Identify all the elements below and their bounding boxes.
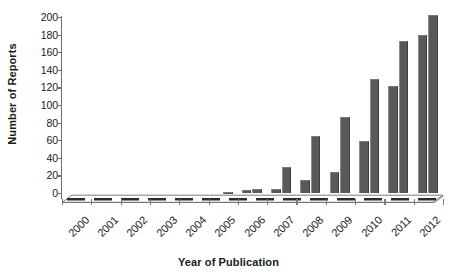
x-tick-mark [62, 199, 63, 205]
bar [282, 167, 292, 193]
y-tick-label: 180 [18, 30, 58, 40]
bar [252, 189, 262, 193]
x-tick-label: 2011 [377, 214, 414, 251]
y-tick-label: 100 [18, 100, 58, 110]
x-tick-label: 2003 [142, 214, 179, 251]
x-tick-label: 2009 [318, 214, 355, 251]
x-tick-label: 2004 [171, 214, 208, 251]
x-tick-mark [414, 199, 415, 205]
x-tick-mark [384, 199, 385, 205]
bar-series-container [62, 17, 443, 193]
x-tick-label: 2008 [289, 214, 326, 251]
bar [340, 117, 350, 193]
x-tick-mark [355, 199, 356, 205]
y-tick-label: 40 [18, 153, 58, 163]
y-tick-label: 80 [18, 118, 58, 128]
y-tick-label: 0 [18, 188, 58, 198]
x-tick-label: 2007 [259, 214, 296, 251]
bar [399, 41, 409, 193]
y-tick-label: 160 [18, 47, 58, 57]
x-tick-mark [296, 199, 297, 205]
x-tick-mark [91, 199, 92, 205]
x-tick-label: 2002 [113, 214, 150, 251]
bar [418, 35, 428, 193]
x-tick-label: 2000 [54, 214, 91, 251]
y-tick-label: 200 [18, 12, 58, 22]
bar [388, 86, 398, 193]
x-tick-mark [179, 199, 180, 205]
x-tick-label: 2010 [347, 214, 384, 251]
x-tick-mark [121, 199, 122, 205]
x-tick-mark [326, 199, 327, 205]
bar [311, 136, 321, 193]
x-tick-label: 2001 [83, 214, 120, 251]
bar [223, 192, 233, 194]
x-tick-label: 2006 [230, 214, 267, 251]
y-tick-label: 140 [18, 65, 58, 75]
x-tick-mark [209, 199, 210, 205]
x-tick-mark [150, 199, 151, 205]
bar [300, 180, 310, 193]
y-tick-label: 20 [18, 170, 58, 180]
x-tick-mark [238, 199, 239, 205]
chart-figure: Number of Reports 2001801601401201008060… [0, 0, 457, 278]
bar [428, 15, 438, 193]
x-tick-mark [267, 199, 268, 205]
bar [330, 172, 340, 193]
x-axis-title: Year of Publication [0, 256, 457, 268]
y-axis-ticks: 200180160140120100806040200 [14, 0, 58, 278]
bar [242, 190, 252, 193]
x-axis-ticks [62, 199, 444, 206]
x-tick-label: 2005 [201, 214, 238, 251]
clipped-chart-title [96, 0, 376, 3]
bar [359, 141, 369, 193]
x-tick-mark [443, 199, 444, 205]
x-tick-label: 2012 [406, 214, 443, 251]
y-tick-label: 120 [18, 82, 58, 92]
y-tick-label: 60 [18, 135, 58, 145]
bar [271, 189, 281, 193]
bar [370, 79, 380, 193]
